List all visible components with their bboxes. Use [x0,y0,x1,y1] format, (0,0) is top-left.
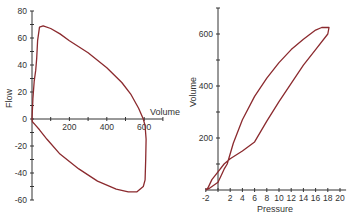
x-tick-label: 10 [274,193,284,203]
x-tick-label: 8 [264,193,269,203]
x-tick-label: 16 [311,193,321,203]
y-tick-label: -40 [15,168,28,178]
x-tick-label: 200 [62,122,76,132]
x-tick-label: 4 [240,193,245,203]
x-axis-label: Volume [150,107,180,117]
y-tick-label: 80 [18,6,28,16]
y-tick-label: 400 [199,81,213,91]
x-axis-label: Pressure [257,204,293,214]
x-tick-label: 2 [228,193,233,203]
x-tick-label: -2 [202,193,210,203]
y-tick-label: 0 [22,114,27,124]
charts-canvas: -60-40-20020406080200400600 Volume Flow … [0,0,355,223]
pressure-volume-chart: 200400600-22468101214161820 Pressure Vol… [188,8,346,214]
pressure-volume-curve [206,28,329,191]
y-tick-label: 200 [199,133,213,143]
flow-volume-curve [32,26,146,192]
x-tick-label: 12 [286,193,296,203]
y-tick-label: 600 [199,29,213,39]
y-axis-label: Volume [188,77,198,107]
x-tick-label: 18 [323,193,333,203]
y-tick-label: 20 [18,87,28,97]
x-tick-label: 6 [252,193,257,203]
x-tick-label: 20 [335,193,345,203]
y-tick-label: 40 [18,60,28,70]
x-tick-label: 400 [100,122,114,132]
y-tick-label: -20 [15,141,28,151]
y-tick-label: 60 [18,33,28,43]
flow-volume-chart: -60-40-20020406080200400600 Volume Flow [4,6,180,205]
pressure-volume-axes: 200400600-22468101214161820 [199,8,346,203]
y-tick-label: -60 [15,195,28,205]
y-axis-label: Flow [4,88,14,108]
x-tick-label: 14 [299,193,309,203]
